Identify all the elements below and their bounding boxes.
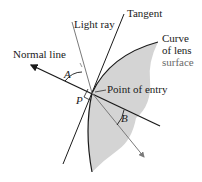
curve-label-2: of lens	[162, 44, 192, 56]
refraction-diagram: Light ray Tangent Normal line Curve of l…	[0, 0, 202, 182]
curve-label-1: Curve	[162, 32, 189, 44]
light-ray-label: Light ray	[74, 18, 115, 30]
curve-label-3: surface	[162, 56, 194, 68]
tangent-label: Tangent	[127, 7, 162, 19]
lens-body	[88, 42, 158, 172]
point-p-label: P	[75, 94, 83, 106]
point-of-entry-label: Point of entry	[107, 83, 168, 95]
light-ray-incident	[72, 22, 92, 93]
ray-direction-tick	[80, 63, 82, 67]
angle-b-label: B	[121, 112, 128, 124]
normal-line-label: Normal line	[13, 48, 66, 60]
angle-a-label: A	[63, 68, 71, 80]
